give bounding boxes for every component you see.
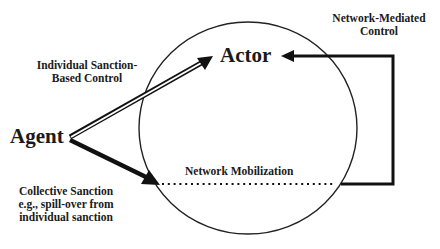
collective-sanction-arrow — [70, 140, 160, 185]
collective-sanction-label: Collective Sanction e.g., spill-over fro… — [6, 185, 126, 225]
network-mobilization-label: Network Mobilization — [185, 165, 293, 178]
agent-node-label: Agent — [10, 124, 64, 148]
collective-sanction-line1: Collective Sanction — [6, 185, 126, 198]
individual-sanction-label: Individual Sanction- Based Control — [22, 59, 152, 85]
network-mediated-label: Network-Mediated Control — [320, 12, 438, 38]
collective-sanction-line2: e.g., spill-over from — [6, 198, 126, 211]
collective-sanction-line3: individual sanction — [6, 211, 126, 224]
individual-sanction-line1: Individual Sanction- — [22, 59, 152, 72]
sanction-control-diagram: Agent Actor Individual Sanction- Based C… — [0, 0, 440, 249]
network-mediated-arrow — [281, 50, 393, 184]
actor-node-label: Actor — [220, 43, 271, 67]
network-mediated-line2: Control — [320, 25, 438, 38]
network-mediated-line1: Network-Mediated — [320, 12, 438, 25]
individual-sanction-line2: Based Control — [22, 72, 152, 85]
